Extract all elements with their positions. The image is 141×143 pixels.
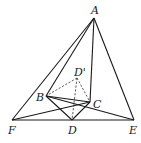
- segment-D-primeD: [72, 78, 77, 120]
- label-A: A: [90, 4, 99, 17]
- segment-D-primeC: [77, 78, 90, 102]
- label-C: C: [93, 98, 102, 111]
- segment-BC: [46, 96, 90, 102]
- label-D-prime: D': [73, 66, 86, 79]
- segment-AB: [46, 18, 94, 96]
- label-E: E: [128, 124, 137, 137]
- label-D: D: [67, 124, 77, 137]
- label-F: F: [7, 124, 16, 137]
- segments: [12, 18, 134, 120]
- label-B: B: [35, 91, 44, 104]
- segment-CD: [72, 102, 90, 120]
- geometry-diagram: A D' B C F D E: [0, 0, 141, 143]
- segment-D-primeB: [46, 78, 77, 96]
- segment-AC: [90, 18, 94, 102]
